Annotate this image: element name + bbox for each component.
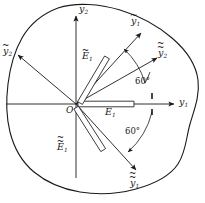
axis-label-y2-tilde: y~2 xyxy=(3,46,12,56)
crack-label-E1-tilde: E~1 xyxy=(82,51,93,61)
crack-E1-double-tilde xyxy=(74,106,106,151)
crack-label-E1: E1 xyxy=(105,107,116,117)
axis-label-y1-tilde: y~1 xyxy=(131,16,140,26)
axis-label-y1: y1 xyxy=(179,97,188,107)
crack-E1-tilde xyxy=(78,56,110,104)
angle-label-lower: 60° xyxy=(125,127,140,136)
body-outline xyxy=(7,4,199,193)
figure-container: y2 y1 y~1 y~2 y~~2 y~~1 E1 E~1 E~~1 60° … xyxy=(0,0,205,203)
crack-label-E1-double-tilde: E~~1 xyxy=(57,142,68,152)
axis-label-y2-double-tilde: y~~2 xyxy=(158,48,167,58)
angle-label-upper: 60° xyxy=(135,77,150,86)
origin-label: O xyxy=(66,106,73,115)
axis-label-y2: y2 xyxy=(79,4,88,14)
axis-y2-tilde xyxy=(18,55,76,104)
axis-label-y1-double-tilde: y~~1 xyxy=(130,178,139,188)
diagram-canvas xyxy=(0,0,205,203)
